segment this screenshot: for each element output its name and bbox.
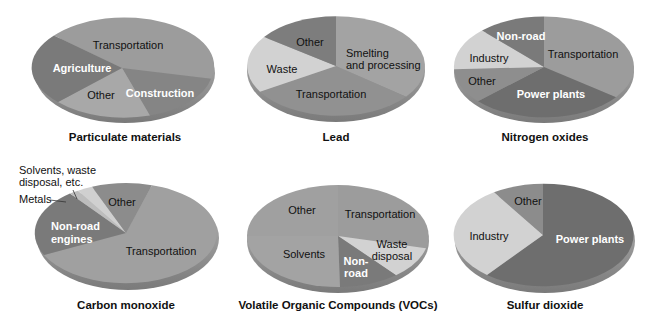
label-transportation: Transportation bbox=[93, 39, 164, 51]
chart-vocs: Other Transportation Solvents Waste disp… bbox=[238, 185, 437, 311]
callout-solvents-line2: disposal, etc. bbox=[19, 176, 83, 188]
pie-charts-figure: Transportation Agriculture Other Constru… bbox=[0, 0, 647, 324]
label-smelting-line1: Smelting bbox=[346, 47, 389, 59]
label-waste: Waste bbox=[267, 63, 298, 75]
label-non-road-line2: engines bbox=[51, 233, 93, 245]
label-agriculture: Agriculture bbox=[53, 62, 112, 74]
label-construction: Construction bbox=[126, 87, 195, 99]
label-non-road-line2: road bbox=[344, 267, 368, 279]
chart-title: Lead bbox=[323, 131, 350, 143]
label-other: Other bbox=[108, 196, 136, 208]
chart-sulfur-dioxide: Other Industry Power plants Sulfur dioxi… bbox=[454, 184, 635, 311]
callout-metals: Metals bbox=[19, 193, 52, 205]
chart-title: Sulfur dioxide bbox=[507, 299, 584, 311]
label-other: Other bbox=[514, 195, 542, 207]
label-non-road: Non-road bbox=[497, 30, 546, 42]
label-power-plants: Power plants bbox=[517, 88, 585, 100]
label-other: Other bbox=[288, 204, 316, 216]
label-power-plants: Power plants bbox=[556, 233, 624, 245]
label-other: Other bbox=[87, 89, 115, 101]
label-non-road-line1: Non- bbox=[343, 255, 368, 267]
label-industry: Industry bbox=[469, 52, 509, 64]
label-transportation: Transportation bbox=[296, 88, 367, 100]
callout-solvents-line1: Solvents, waste bbox=[19, 164, 96, 176]
chart-nitrogen-oxides: Non-road Industry Other Transportation P… bbox=[454, 17, 634, 143]
label-smelting-line2: and processing bbox=[346, 59, 421, 71]
chart-title: Nitrogen oxides bbox=[502, 131, 589, 143]
label-solvents: Solvents bbox=[283, 248, 326, 260]
chart-particulate-materials: Transportation Agriculture Other Constru… bbox=[32, 17, 215, 143]
chart-lead: Other Smelting and processing Waste Tran… bbox=[247, 16, 425, 143]
label-non-road-line1: Non-road bbox=[51, 220, 100, 232]
chart-title: Carbon monoxide bbox=[77, 299, 175, 311]
label-transportation: Transportation bbox=[126, 245, 197, 257]
label-transportation: Transportation bbox=[345, 208, 416, 220]
slice-solvents bbox=[247, 236, 340, 287]
label-waste-line2: disposal bbox=[372, 250, 412, 262]
chart-carbon-monoxide: Solvents, waste disposal, etc. Metals Ot… bbox=[19, 164, 219, 311]
label-other: Other bbox=[296, 36, 324, 48]
label-waste-line1: Waste bbox=[377, 238, 408, 250]
label-other: Other bbox=[468, 75, 496, 87]
chart-title: Particulate materials bbox=[69, 131, 182, 143]
label-industry: Industry bbox=[469, 230, 509, 242]
chart-title: Volatile Organic Compounds (VOCs) bbox=[238, 299, 437, 311]
label-transportation: Transportation bbox=[548, 48, 619, 60]
